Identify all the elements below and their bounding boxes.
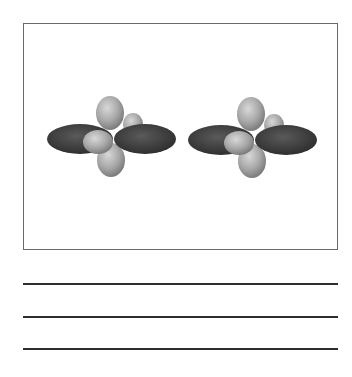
front-lower-left-lobe — [224, 131, 254, 155]
top-lobe — [237, 97, 265, 131]
orbital-diagram — [0, 0, 352, 377]
right-dark-lobe — [255, 125, 317, 155]
answer-line-2 — [23, 316, 338, 318]
front-lower-left-lobe — [83, 130, 113, 154]
answer-line-3 — [23, 348, 338, 350]
answer-line-1 — [23, 283, 338, 285]
orbital-set-right — [188, 97, 317, 178]
right-dark-lobe — [114, 124, 176, 154]
top-lobe — [96, 96, 124, 130]
orbital-set-left — [47, 96, 176, 177]
